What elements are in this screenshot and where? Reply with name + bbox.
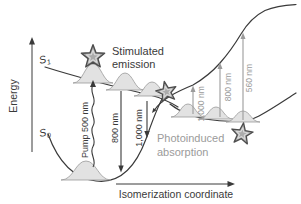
se-arrowhead-800nm-icon [118, 166, 123, 173]
energy-axis-label: Energy [7, 79, 19, 113]
stimulated-emission-label-line2: emission [112, 58, 155, 70]
wavepacket-s1-2 [106, 73, 144, 90]
pa-label-560nm: 560 nm [244, 64, 254, 92]
pump-arrow-label: Pump 500 nm [80, 102, 90, 158]
energy-axis-arrowhead-icon [29, 37, 35, 45]
star-franck-condon-icon [81, 45, 104, 67]
photoinduced-absorption-label-line1: Photoinduced [157, 132, 224, 144]
photoinduced-absorption-label-line2: absorption [157, 146, 208, 158]
s1-subscript: 1 [46, 58, 52, 66]
star-product-icon [230, 121, 254, 144]
s1-state-label: S1 [38, 52, 52, 68]
se-arrowhead-1000nm-icon [144, 131, 149, 138]
s0-state-label: S0 [38, 125, 52, 140]
pa-label-1000nm: 1,000 nm [196, 86, 206, 121]
isomerization-axis-arrowhead-icon [228, 181, 236, 187]
se-label-800nm: 800 nm [110, 113, 120, 143]
figure-canvas: Energy Isomerization coordinate S1 S0 St… [0, 0, 301, 204]
se-label-1000nm: 1,000 nm [134, 109, 144, 147]
s0-reactant-curve [48, 92, 166, 181]
pump-arrow [92, 85, 95, 167]
wavepacket-s0-initial [61, 161, 111, 180]
stimulated-emission-label-line1: Stimulated [112, 45, 164, 57]
isomerization-axis-label: Isomerization coordinate [119, 188, 234, 200]
s0-subscript: 0 [46, 131, 51, 139]
pa-label-800nm: 800 nm [223, 73, 233, 101]
